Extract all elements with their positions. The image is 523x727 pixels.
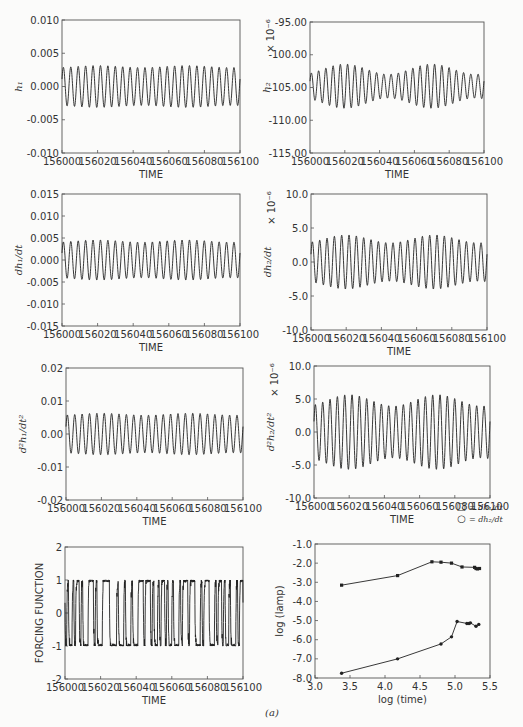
legend-marker-circle-icon: ○ xyxy=(457,513,466,524)
y-axis-label: h₁ xyxy=(13,81,24,91)
series-line-d2h1/dt2 xyxy=(66,413,243,455)
y-tick-label: -1.0 xyxy=(292,539,312,550)
x-tick-label: 4.0 xyxy=(377,681,393,692)
y-tick-label: -8.0 xyxy=(292,673,312,684)
x-tick-label: 156100 xyxy=(221,156,259,167)
x-tick-label: 156060 xyxy=(398,333,436,344)
x-tick-label: 156100 xyxy=(224,682,262,693)
x-tick-label: 156040 xyxy=(114,329,152,340)
y-axis-label: d²h₁/dt² xyxy=(17,415,28,454)
y-axis-label: d²h₂/dt² xyxy=(265,413,276,452)
y-tick-label: -1 xyxy=(52,641,62,652)
series-line-h2 xyxy=(310,64,484,108)
x-tick-label: 156080 xyxy=(185,329,223,340)
y-tick-label: -105.00 xyxy=(268,82,307,93)
x-axis-label: TIME xyxy=(384,169,409,180)
y-tick-label: -2 xyxy=(52,674,62,685)
y-tick-label: -0.005 xyxy=(27,277,59,288)
y-axis-label: log (lamp) xyxy=(274,585,285,636)
x-axis-label: TIME xyxy=(386,346,411,357)
data-point-circle xyxy=(455,620,458,623)
series-line-dh2/dt xyxy=(342,622,479,674)
x-tick-label: 156040 xyxy=(365,501,403,512)
data-point-circle xyxy=(340,672,343,675)
series-line-forcing xyxy=(65,580,243,646)
x-tick-label: 156020 xyxy=(79,329,117,340)
chart-panel-log_amp: 3.03.54.04.55.05.5-1.0-2.0-3.0-4.0-5.0-6… xyxy=(274,501,504,705)
y-tick-label: -7.0 xyxy=(292,653,312,664)
x-tick-label: 156080 xyxy=(430,156,468,167)
y-tick-label: -0.015 xyxy=(27,321,59,332)
y-tick-label: -0.02 xyxy=(37,495,63,506)
x-tick-label: 156060 xyxy=(150,329,188,340)
y-tick-label: 0 xyxy=(56,608,62,619)
scale-note: × 10⁻⁶ xyxy=(269,363,280,397)
y-tick-label: 0.02 xyxy=(41,363,63,374)
x-tick-label: 156020 xyxy=(327,333,365,344)
y-tick-label: 0.000 xyxy=(30,81,59,92)
x-axis-label: TIME xyxy=(138,169,163,180)
x-tick-label: 156060 xyxy=(395,156,433,167)
series-line-dh1/dt xyxy=(342,562,480,585)
y-tick-label: -5.0 xyxy=(288,291,308,302)
x-tick-label: 156040 xyxy=(362,333,400,344)
x-tick-label: 156020 xyxy=(326,156,364,167)
chart-panel-d2h2dt2: 15600015602015604015606015608015610010.0… xyxy=(265,361,509,526)
y-tick-label: 0.005 xyxy=(30,233,59,244)
data-point-circle xyxy=(469,621,472,624)
chart-panel-d2h1dt2: 1560001560201560401560601560801561000.02… xyxy=(17,363,262,528)
y-tick-label: 10.0 xyxy=(286,189,308,200)
series-line-h1 xyxy=(62,66,240,108)
y-tick-label: -2.0 xyxy=(292,558,312,569)
y-axis-label: h₂ xyxy=(261,82,272,92)
x-axis-label: TIME xyxy=(141,695,166,706)
y-tick-label: 1 xyxy=(56,575,62,586)
x-tick-label: 156080 xyxy=(189,503,227,514)
data-point-circle xyxy=(477,623,480,626)
x-axis-label: log (time) xyxy=(378,694,427,705)
y-tick-label: -5.0 xyxy=(292,615,312,626)
x-tick-label: 156100 xyxy=(224,503,262,514)
y-tick-label: -0.005 xyxy=(27,114,59,125)
x-tick-label: 5.0 xyxy=(447,681,463,692)
chart-panel-dh1dt: 1560001560201560401560601560801561000.01… xyxy=(13,189,259,354)
y-tick-label: 0.00 xyxy=(41,429,63,440)
y-tick-label: 5.0 xyxy=(292,223,308,234)
x-tick-label: 156060 xyxy=(153,682,191,693)
data-point-square xyxy=(478,567,481,570)
series-line-dh2/dt xyxy=(311,235,487,289)
y-tick-label: -3.0 xyxy=(292,577,312,588)
y-axis-label: FORCING FUNCTION xyxy=(34,563,45,663)
x-tick-label: 156060 xyxy=(150,156,188,167)
x-axis-label: TIME xyxy=(138,342,163,353)
y-tick-label: -5.0 xyxy=(291,460,311,471)
x-tick-label: 5.5 xyxy=(482,681,498,692)
data-point-circle xyxy=(450,635,453,638)
legend-marker-square-icon: □ xyxy=(457,501,466,512)
series-line-d2h2/dt2 xyxy=(314,395,490,469)
chart-panel-h2: 156000156020156040156060156080156100-95.… xyxy=(261,17,503,181)
data-point-square xyxy=(460,565,463,568)
y-tick-label: 0.01 xyxy=(41,396,63,407)
y-tick-label: 0.0 xyxy=(292,257,308,268)
chart-panel-h1: 1560001560201560401560601560801561000.01… xyxy=(13,15,259,181)
y-tick-label: -0.010 xyxy=(27,299,59,310)
data-point-square xyxy=(430,560,433,563)
y-tick-label: 0.0 xyxy=(295,427,311,438)
x-tick-label: 156080 xyxy=(185,156,223,167)
y-tick-label: -95.00 xyxy=(275,17,307,28)
data-point-circle xyxy=(474,625,477,628)
y-tick-label: 5.0 xyxy=(295,394,311,405)
data-point-square xyxy=(439,561,442,564)
x-tick-label: 156040 xyxy=(361,156,399,167)
legend-label: = dh₁/dt xyxy=(469,503,504,512)
x-axis-label: TIME xyxy=(389,514,414,525)
data-point-circle xyxy=(396,657,399,660)
chart-panel-dh2dt: 15600015602015604015606015608015610010.0… xyxy=(262,189,506,358)
x-tick-label: 156040 xyxy=(117,682,155,693)
x-tick-label: 156080 xyxy=(433,333,471,344)
x-tick-label: 156060 xyxy=(401,501,439,512)
plot-frame xyxy=(315,544,490,678)
x-tick-label: 156080 xyxy=(188,682,226,693)
y-tick-label: -115.00 xyxy=(268,148,307,159)
